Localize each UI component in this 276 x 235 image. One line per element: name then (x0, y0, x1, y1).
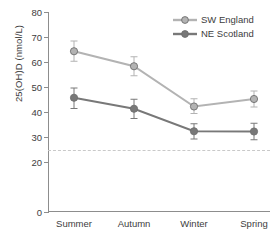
data-point-marker (250, 95, 257, 102)
data-series-layer (48, 12, 270, 212)
data-point-marker (130, 105, 137, 112)
legend-item-sw-england: SW England (172, 14, 254, 25)
legend-marker-icon (172, 29, 198, 39)
y-tick-label: 0 (37, 207, 42, 218)
x-tick-label-autumn: Autumn (118, 218, 151, 229)
x-tick-label-summer: Summer (56, 218, 92, 229)
legend-label: NE Scotland (201, 28, 254, 39)
chart-legend: SW EnglandNE Scotland (172, 14, 254, 39)
y-axis-title: 25(OH)D (nmol/L) (13, 0, 24, 134)
series-ne-scotland (70, 88, 257, 140)
x-tick-label-winter: Winter (180, 218, 207, 229)
data-point-marker (190, 128, 197, 135)
legend-item-ne-scotland: NE Scotland (172, 28, 254, 39)
series-line (74, 51, 254, 106)
data-point-marker (250, 128, 257, 135)
y-tick-label: 60 (31, 57, 42, 68)
chart-figure: 25(OH)D (nmol/L) 020304050607080 SummerA… (0, 0, 276, 235)
legend-label: SW England (201, 14, 254, 25)
data-point-marker (70, 48, 77, 55)
y-tick-label: 30 (31, 132, 42, 143)
data-point-marker (190, 103, 197, 110)
data-point-marker (130, 63, 137, 70)
y-tick-label: 80 (31, 7, 42, 18)
legend-marker-icon (172, 15, 198, 25)
y-tick-label: 50 (31, 82, 42, 93)
x-tick-label-spring: Spring (240, 218, 267, 229)
y-tick-label: 40 (31, 107, 42, 118)
data-point-marker (70, 94, 77, 101)
plot-area: 020304050607080 SummerAutumnWinterSpring (48, 12, 270, 212)
y-tick-mark (44, 212, 48, 213)
y-tick-label: 20 (31, 157, 42, 168)
y-tick-label: 70 (31, 32, 42, 43)
